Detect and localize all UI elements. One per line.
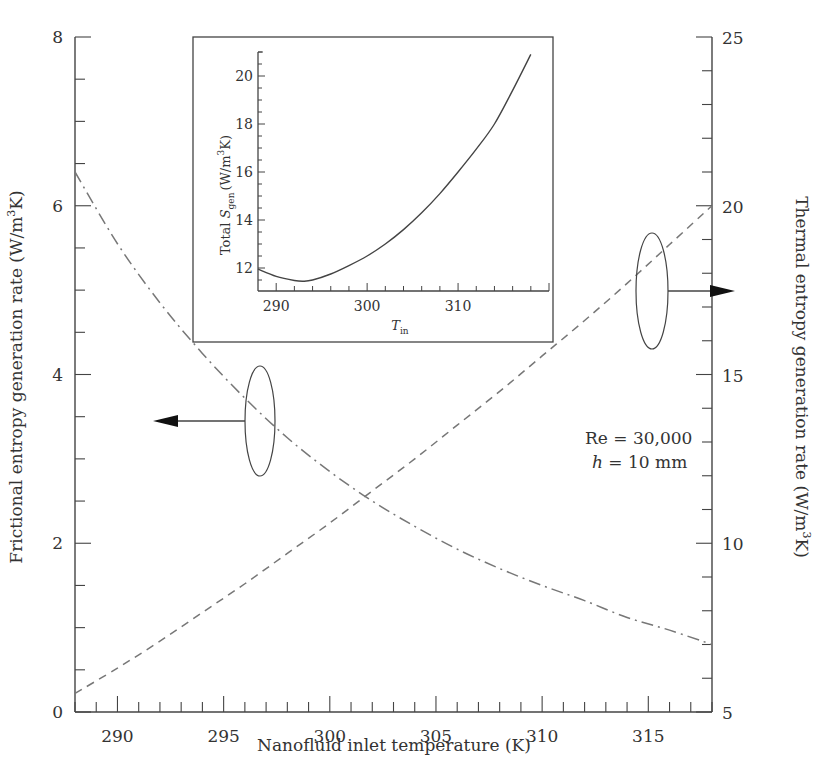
right-axis-indicator [636,233,735,349]
y-right-tick-label: 5 [722,703,733,723]
ellipse-marker [636,233,668,349]
y-left-tick-label: 4 [52,365,63,385]
arrow-right-icon [710,285,735,297]
x-axis-title: Nanofluid inlet temperature (K) [257,735,531,755]
y-right-tick-label: 20 [722,197,744,217]
left-axis-indicator [153,366,275,476]
inset-x-tick-label: 290 [263,298,290,314]
ellipse-marker [245,366,275,476]
y-right-tick-label: 10 [722,534,744,554]
inset-x-tick-label: 310 [445,298,472,314]
y-left-tick-label: 6 [52,196,63,216]
y-left-tick-label: 8 [52,27,63,47]
y-axis-left-title: Frictional entropy generation rate (W/m3… [5,190,26,563]
y-right-tick-label: 15 [722,366,744,386]
y-left-tick-label: 0 [52,702,63,722]
inset-y-tick-label: 16 [235,164,253,180]
inset-y-tick-label: 12 [235,260,253,276]
inset-y-tick-label: 18 [235,116,253,132]
y-right-tick-label: 25 [722,28,744,48]
x-tick-label: 290 [101,726,133,746]
inset-y-tick-label: 20 [235,68,253,84]
chart-canvas: 29029530030531031502468510152025 2903003… [0,0,834,776]
y-left-tick-label: 2 [52,533,63,553]
inset-y-tick-label: 14 [235,212,253,228]
x-tick-label: 315 [632,726,664,746]
y-axis-right-title: Thermal entropy generation rate (W/m3K) [792,196,813,558]
inset-x-tick-label: 300 [354,298,381,314]
arrow-left-icon [153,415,178,427]
annotation-height: h = 10 mm [592,452,687,472]
annotation-reynolds: Re = 30,000 [585,428,692,448]
x-tick-label: 295 [207,726,239,746]
